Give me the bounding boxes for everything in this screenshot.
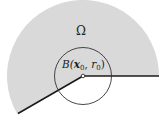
- ball-label-suffix: ): [101, 58, 105, 70]
- ball-label-prefix: B(: [62, 58, 74, 70]
- omega-label: Ω: [76, 25, 86, 37]
- ball-label: B(x0, r0): [62, 59, 105, 72]
- domain-diagram: Ω B(x0, r0): [0, 0, 164, 124]
- center-point: [81, 74, 85, 78]
- omega-region: [7, 0, 159, 114]
